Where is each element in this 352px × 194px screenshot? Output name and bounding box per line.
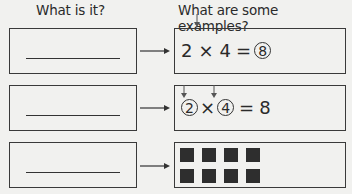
answer-blank-3[interactable] [26,172,120,173]
equation-1: 2 × 4 = 8 [181,40,271,61]
equals-sign: = [239,97,254,118]
array-square [180,169,194,183]
example-box-2: 2 × 4 = 8 [174,85,346,131]
equation-2: 2 × 4 = 8 [181,97,271,118]
answer-blank-2[interactable] [26,115,120,116]
answer-blank-1[interactable] [26,58,120,59]
array-square [246,169,260,183]
arrow-down-icon [210,85,218,98]
circled-factor-a: 2 [181,99,198,116]
array-square [224,148,238,162]
arrow-down-icon [193,14,201,27]
arrow-down-icon [180,85,188,98]
circled-factor-b: 4 [217,99,234,116]
equals-sign: = [236,40,251,61]
answer-box-2[interactable] [9,85,137,131]
times-sign: × [198,40,213,61]
arrow-right-icon [140,47,170,55]
array-square [180,148,194,162]
answer-box-1[interactable] [9,28,137,74]
factor-b: 4 [220,40,231,61]
example-box-1: 2 × 4 = 8 [174,28,346,74]
array-square [202,148,216,162]
array-square [202,169,216,183]
times-sign: × [200,97,215,118]
circled-product: 8 [254,42,271,59]
product: 8 [259,97,270,118]
header-what-is-it: What is it? [36,2,105,18]
array-square [224,169,238,183]
example-box-3 [174,142,346,188]
array-2x4 [180,148,260,183]
arrow-right-icon [140,162,170,170]
array-square [246,148,260,162]
arrow-right-icon [140,104,170,112]
answer-box-3[interactable] [9,142,137,188]
factor-a: 2 [181,40,192,61]
